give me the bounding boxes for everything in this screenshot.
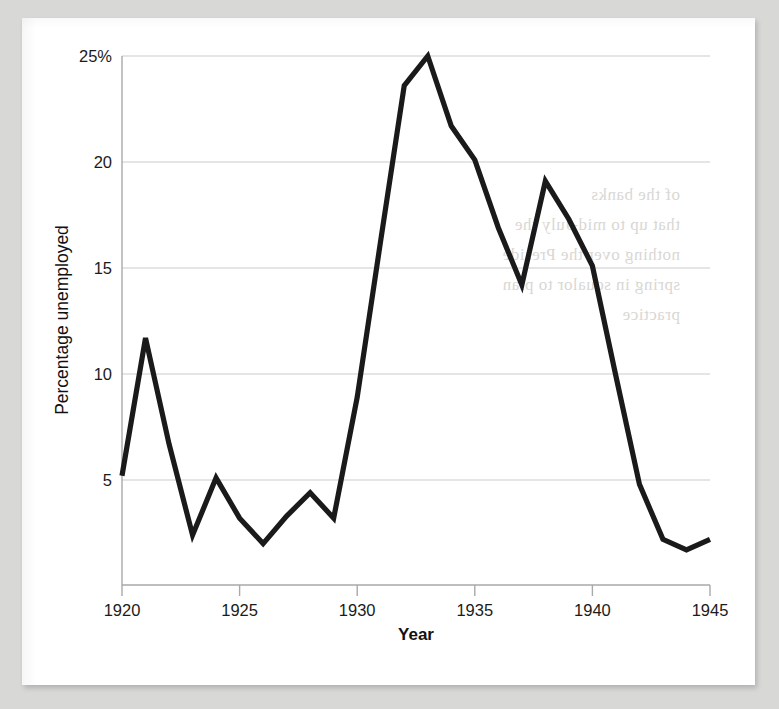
y-tick-label-5: 5 <box>103 471 112 489</box>
y-tick-labels-group: 510152025% <box>79 47 112 489</box>
x-tick-label-1925: 1925 <box>221 601 258 619</box>
y-tick-label-25: 25% <box>79 47 112 65</box>
x-tick-label-1930: 1930 <box>339 601 376 619</box>
x-tick-labels-group: 192019251930193519401945 <box>104 601 729 619</box>
y-tick-label-15: 15 <box>94 259 112 277</box>
gridlines-group <box>122 56 710 480</box>
x-tick-label-1935: 1935 <box>456 601 493 619</box>
x-tick-marks-group <box>122 585 710 596</box>
x-axis-title: Year <box>398 625 434 644</box>
x-tick-label-1920: 1920 <box>104 601 141 619</box>
y-axis-title: Percentage unemployed <box>52 225 72 415</box>
chart-svg: 510152025% 192019251930193519401945 Year… <box>0 0 779 709</box>
unemployment-data-line <box>122 56 710 550</box>
unemployment-line-chart: 510152025% 192019251930193519401945 Year… <box>0 0 779 709</box>
x-tick-label-1945: 1945 <box>692 601 729 619</box>
y-tick-label-20: 20 <box>94 153 112 171</box>
y-tick-label-10: 10 <box>94 365 112 383</box>
x-tick-label-1940: 1940 <box>574 601 611 619</box>
axis-lines-group <box>122 56 710 585</box>
